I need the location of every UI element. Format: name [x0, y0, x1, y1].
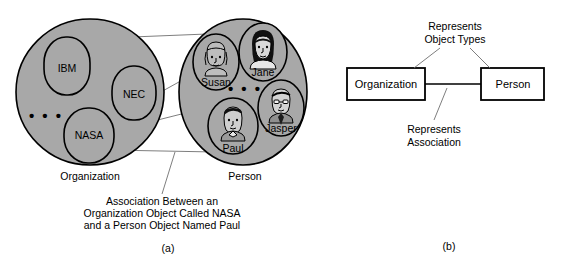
- subfigure-label-b: (b): [443, 240, 456, 252]
- object-nec: NEC: [112, 66, 156, 120]
- object-ibm: IBM: [44, 37, 90, 95]
- object-types-leader-lines: [414, 48, 490, 68]
- object-types-leader-right: [470, 48, 490, 68]
- set-organization: IBM NEC NASA • • • Organization: [16, 19, 164, 182]
- object-ibm-label: IBM: [58, 62, 77, 74]
- person-ellipsis: • • •: [228, 80, 262, 97]
- figure-root: IBM NEC NASA • • • Organization: [0, 0, 568, 261]
- object-paul: Paul: [208, 98, 258, 154]
- object-paul-label: Paul: [222, 142, 243, 154]
- panel-a: IBM NEC NASA • • • Organization: [16, 19, 307, 254]
- caption-line-1: Association Between an: [106, 195, 218, 207]
- object-jasper-label: Jasper: [265, 122, 297, 134]
- caption-line-3: and a Person Object Named Paul: [84, 219, 240, 231]
- set-person: Susan Jane: [179, 19, 307, 182]
- annotation-association: Represents Association: [407, 123, 461, 148]
- object-nasa: NASA: [64, 108, 114, 163]
- entity-box-person: Person: [481, 68, 544, 100]
- subfigure-label-a: (a): [162, 242, 175, 254]
- object-nec-label: NEC: [123, 88, 146, 100]
- caption-line-2: Organization Object Called NASA: [84, 207, 241, 219]
- annotation-object-types-line-1: Represents: [428, 20, 482, 32]
- annotation-object-types-line-2: Object Types: [424, 33, 485, 45]
- annotation-association-line-1: Represents: [407, 123, 461, 135]
- association-leader-line: [434, 88, 447, 120]
- susan-portrait-icon: [205, 42, 227, 76]
- entity-box-organization-label: Organization: [355, 78, 417, 90]
- entity-box-organization: Organization: [347, 68, 425, 100]
- object-jasper: Jasper: [258, 80, 304, 136]
- annotation-object-types: Represents Object Types: [424, 20, 485, 45]
- caption-leader-line: [162, 152, 175, 194]
- organization-ellipsis: • • •: [29, 107, 63, 124]
- object-jane: Jane: [239, 23, 287, 81]
- jane-portrait-icon: [250, 30, 276, 69]
- object-susan-label: Susan: [201, 76, 231, 88]
- paul-portrait-icon: [221, 107, 245, 141]
- figure-canvas: IBM NEC NASA • • • Organization: [0, 0, 568, 261]
- object-jane-label: Jane: [252, 66, 275, 78]
- set-person-label: Person: [228, 170, 261, 182]
- jasper-portrait-icon: [269, 89, 293, 125]
- object-types-leader-left: [414, 48, 440, 68]
- object-nasa-label: NASA: [75, 129, 104, 141]
- panel-b: Organization Person Represents Object Ty…: [347, 20, 544, 252]
- annotation-association-line-2: Association: [407, 136, 461, 148]
- entity-box-person-label: Person: [496, 78, 531, 90]
- panel-a-caption: Association Between an Organization Obje…: [84, 195, 241, 231]
- set-organization-label: Organization: [60, 170, 120, 182]
